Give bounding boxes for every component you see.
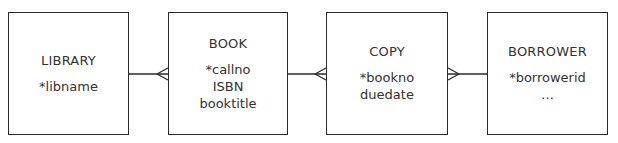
entity-borrower: BORROWER *borrowerid …	[487, 12, 608, 135]
entity-book: BOOK *callno ISBN booktitle	[168, 12, 288, 135]
attribute-duedate: duedate	[360, 86, 414, 103]
entity-copy: COPY *bookno duedate	[326, 12, 448, 135]
relationship-library-book	[129, 68, 168, 80]
relationship-book-copy	[288, 68, 326, 80]
entity-name: COPY	[369, 44, 405, 59]
attribute-libname: *libname	[39, 78, 98, 95]
attribute-callno: *callno	[205, 61, 250, 78]
attribute-booktitle: booktitle	[199, 95, 256, 112]
attribute-ellipsis: …	[541, 86, 554, 103]
attribute-borrowerid: *borrowerid	[509, 69, 586, 86]
attribute-isbn: ISBN	[213, 78, 244, 95]
entity-name: BOOK	[209, 36, 247, 51]
relationship-copy-borrower	[448, 68, 487, 80]
attribute-bookno: *bookno	[360, 69, 414, 86]
entity-name: LIBRARY	[41, 53, 96, 68]
entity-name: BORROWER	[508, 44, 587, 59]
entity-library: LIBRARY *libname	[8, 12, 129, 135]
